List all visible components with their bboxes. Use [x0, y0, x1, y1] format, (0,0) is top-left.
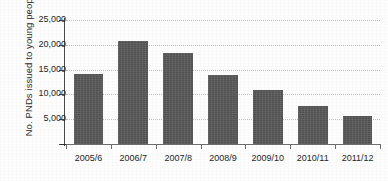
y-tick-label: 10,000 — [6, 89, 66, 98]
y-axis-line — [64, 18, 65, 146]
x-tick-mark — [111, 144, 112, 149]
y-tick-label: – — [6, 139, 66, 149]
x-tick-mark — [380, 144, 381, 149]
x-tick-mark — [201, 144, 202, 149]
bar — [208, 75, 238, 144]
y-tick-label: 25,000 — [6, 15, 66, 24]
y-tick-label: 15,000 — [6, 65, 66, 74]
bar — [253, 90, 283, 144]
x-tick-label: 2011/12 — [332, 153, 384, 163]
bar — [118, 41, 148, 144]
bar — [298, 106, 328, 144]
x-tick-mark — [290, 144, 291, 149]
y-tick-label: 5,000 — [6, 114, 66, 123]
bar — [343, 116, 373, 144]
x-tick-mark — [66, 144, 67, 149]
bar-series — [66, 20, 380, 144]
x-tick-mark — [245, 144, 246, 149]
plot-area — [66, 20, 380, 144]
bar — [163, 53, 193, 144]
bar-chart: No. PNDs issued to young people –5,00010… — [0, 0, 388, 181]
x-tick-mark — [335, 144, 336, 149]
y-tick-label: 20,000 — [6, 40, 66, 49]
x-tick-mark — [156, 144, 157, 149]
bar — [74, 74, 104, 144]
